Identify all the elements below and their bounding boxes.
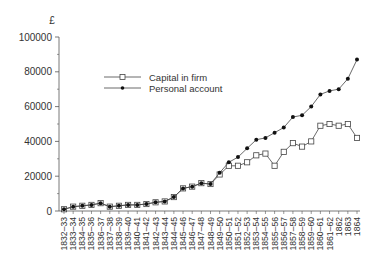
data-point-dot <box>355 58 359 62</box>
data-point-square <box>245 160 250 165</box>
data-point-dot <box>254 138 258 142</box>
legend-item-personal: Personal account <box>104 83 223 94</box>
data-point-dot <box>209 182 213 186</box>
y-tick-label: 0 <box>46 206 52 217</box>
data-point-dot <box>71 205 75 209</box>
data-point-dot <box>172 195 176 199</box>
data-point-dot <box>163 199 167 203</box>
data-point-dot <box>126 203 130 207</box>
data-point-square <box>281 149 286 154</box>
y-tick-label: 100000 <box>19 32 53 43</box>
data-point-square <box>327 121 332 126</box>
data-point-dot <box>300 113 304 117</box>
data-point-dot <box>291 115 295 119</box>
data-point-dot <box>135 203 139 207</box>
data-point-dot <box>117 204 121 208</box>
line-chart: £ 020000400006000080000100000 1832–33183… <box>0 0 380 271</box>
data-point-dot <box>227 160 231 164</box>
data-point-dot <box>263 136 267 140</box>
y-tick-label: 40000 <box>24 136 52 147</box>
data-point-square <box>354 135 359 140</box>
data-point-dot <box>245 146 249 150</box>
y-tick-label: 20000 <box>24 171 52 182</box>
data-point-dot <box>273 131 277 135</box>
data-point-dot <box>181 186 185 190</box>
data-point-square <box>309 139 314 144</box>
data-point-square <box>290 141 295 146</box>
y-tick-label: 60000 <box>24 101 52 112</box>
data-point-square <box>336 123 341 128</box>
series-capital-in-firm <box>61 121 359 211</box>
data-point-square <box>263 151 268 156</box>
data-point-square <box>299 144 304 149</box>
legend-label-capital: Capital in firm <box>149 72 207 83</box>
data-point-dot <box>218 171 222 175</box>
open-square-icon <box>120 75 125 80</box>
y-axis-unit-label: £ <box>49 15 55 26</box>
legend-item-capital: Capital in firm <box>104 72 207 83</box>
y-tick-label: 80000 <box>24 66 52 77</box>
data-point-dot <box>190 185 194 189</box>
series-personal-account <box>62 58 359 212</box>
chart-canvas: £ 020000400006000080000100000 1832–33183… <box>0 0 380 271</box>
data-point-dot <box>282 125 286 129</box>
data-point-square <box>318 123 323 128</box>
legend: Capital in firm Personal account <box>104 72 223 94</box>
data-point-dot <box>99 201 103 205</box>
data-point-dot <box>154 200 158 204</box>
x-tick-label: 1864 <box>352 217 362 236</box>
y-axis: 020000400006000080000100000 <box>19 32 59 217</box>
data-point-dot <box>328 89 332 93</box>
data-point-square <box>235 163 240 168</box>
data-point-dot <box>89 203 93 207</box>
data-point-square <box>254 153 259 158</box>
data-point-dot <box>309 105 313 109</box>
data-point-square <box>272 163 277 168</box>
data-series <box>61 58 359 212</box>
data-point-dot <box>144 202 148 206</box>
data-point-dot <box>337 87 341 91</box>
data-point-dot <box>236 155 240 159</box>
data-point-dot <box>62 207 66 211</box>
x-axis: 1832–331833–341834–351835–361836–371837–… <box>59 211 362 250</box>
data-point-dot <box>108 205 112 209</box>
data-point-dot <box>199 181 203 185</box>
data-point-dot <box>346 77 350 81</box>
legend-label-personal: Personal account <box>149 83 223 94</box>
filled-diamond-icon <box>121 86 125 90</box>
data-point-dot <box>80 204 84 208</box>
data-point-square <box>345 121 350 126</box>
data-point-dot <box>318 92 322 96</box>
